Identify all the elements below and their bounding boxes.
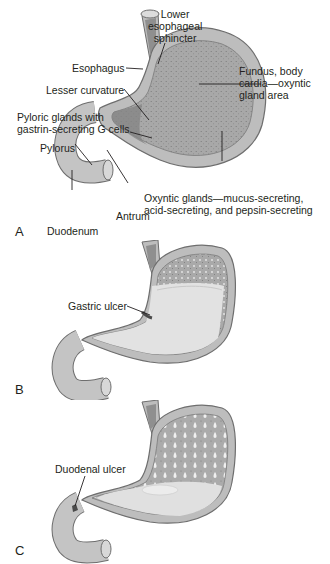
label-line: Fundus, body: [239, 65, 311, 77]
panel-a: Lower esophageal sphincter Esophagus Les…: [0, 0, 330, 190]
label-pyloric-glands: Pyloric glands with gastrin-secreting G …: [17, 111, 130, 135]
stomach-illustration-b: [0, 240, 330, 400]
panel-letter-c: C: [15, 543, 24, 558]
panel-letter-b: B: [15, 382, 24, 397]
label-line: acid-secreting, and pepsin-secreting: [144, 204, 313, 216]
label-line: gastrin-secreting G cells: [17, 123, 130, 135]
label-line: Lower: [148, 8, 202, 20]
label-antrum: Antrum: [116, 210, 150, 222]
label-line: Pyloric glands with: [17, 111, 130, 123]
label-line: Oxyntic glands—mucus-secreting,: [144, 192, 313, 204]
stomach-illustration-c: [0, 400, 330, 564]
panel-b: Gastric ulcer B: [0, 240, 330, 400]
label-fundus: Fundus, body cardia—oxyntic gland area: [239, 65, 311, 101]
label-duodenum: Duodenum: [47, 225, 98, 237]
label-line: sphincter: [148, 32, 202, 44]
label-oxyntic-glands: Oxyntic glands—mucus-secreting, acid-sec…: [144, 192, 313, 216]
label-esophagus: Esophagus: [72, 62, 125, 74]
label-lesser-curvature: Lesser curvature: [46, 84, 124, 96]
label-line: gland area: [239, 89, 311, 101]
panel-c: Duodenal ulcer C: [0, 400, 330, 564]
label-lower-esophageal-sphincter: Lower esophageal sphincter: [148, 8, 202, 44]
label-gastric-ulcer: Gastric ulcer: [68, 300, 127, 312]
label-duodenal-ulcer: Duodenal ulcer: [55, 463, 126, 475]
label-pylorus: Pylorus: [40, 142, 75, 154]
panel-letter-a: A: [15, 224, 24, 239]
label-line: cardia—oxyntic: [239, 77, 311, 89]
label-line: esophageal: [148, 20, 202, 32]
leader-line-duodenal-ulcer: [75, 476, 85, 506]
